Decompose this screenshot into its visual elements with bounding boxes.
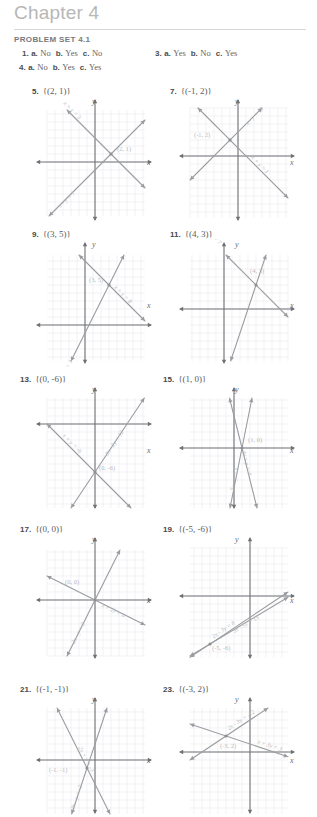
equation-label: x + y = 3 — [62, 99, 83, 120]
problem-number: 11. — [170, 230, 181, 239]
coordinate-plane: x + y = -63x - 2y = 12(0, -6) — [33, 384, 157, 512]
intersection-point — [109, 152, 112, 155]
problem-caption-5: 5.{(2, 1)} — [32, 86, 71, 96]
answer-part-value: No — [200, 48, 210, 58]
y-axis-label: y — [92, 535, 96, 544]
answer-part-letter: c. — [216, 49, 223, 58]
point-label: (0, 0) — [65, 578, 79, 586]
answer-part-value: No — [92, 48, 102, 58]
intersection-point — [93, 598, 96, 601]
y-axis-label: y — [235, 695, 239, 704]
answer-part-letter: c. — [80, 63, 87, 72]
x-axis-label: x — [290, 158, 294, 167]
problem-caption-11: 11.{(4, 3)} — [170, 229, 213, 239]
coordinate-plane: 2x - y = 0x + 2y = 0(0, 0) — [33, 534, 157, 662]
solution-set: {(0, -6)} — [35, 374, 66, 384]
solution-set: {(-3, 2)} — [178, 684, 209, 694]
x-axis-label: x — [290, 756, 294, 765]
page-title: Chapter 4 — [14, 2, 99, 24]
intersection-point — [224, 734, 227, 737]
graph-problem-21: 3x - y = -22x + y = -3(-1, -1) y x — [33, 694, 157, 817]
answer-line-4: 4.a.Nob.Yesc.Yes — [19, 62, 101, 72]
x-axis-label: x — [147, 596, 151, 605]
answer-part-value: Yes — [173, 48, 185, 58]
solution-set: {(3, 5)} — [43, 229, 71, 239]
answer-part-letter: b. — [191, 49, 198, 58]
y-axis-label: y — [92, 240, 96, 249]
equation-label: x - y = 1 — [56, 190, 75, 209]
header-divider — [14, 29, 306, 30]
problem-number: 5. — [32, 87, 39, 96]
coordinate-plane: x + y = 82x - y = 1(3, 5) — [33, 239, 157, 367]
answer-part-value: Yes — [225, 48, 237, 58]
intersection-point — [93, 470, 96, 473]
graph-problem-23: 2x - 3y = -12x + 3y = 3(-3, 2) y x — [176, 694, 300, 817]
point-label: (1, 0) — [248, 436, 262, 444]
coordinate-plane: x + y = 3x - y = 1(2, 1) — [33, 96, 157, 224]
equation-label: x + y = 7 — [202, 239, 224, 246]
point-label: (-5, -6) — [212, 644, 230, 652]
x-axis-label: x — [147, 756, 151, 765]
coordinate-plane: 2x - 3y = 83x - 5y = 15(-5, -6) — [176, 534, 300, 662]
problem-caption-13: 13.{(0, -6)} — [20, 374, 66, 384]
solution-set: {(-5, -6)} — [178, 524, 212, 534]
graph-problem-19: 2x - 3y = 83x - 5y = 15(-5, -6) y x — [176, 534, 300, 662]
coordinate-plane: x + y = 73x - y = 9(4, 3) — [176, 239, 300, 367]
graph-problem-5: x + y = 3x - y = 1(2, 1) y x — [33, 96, 157, 224]
point-label: (2, 1) — [117, 145, 131, 153]
coordinate-plane: 2x - 3y = -12x + 3y = 3(-3, 2) — [176, 694, 300, 817]
coordinate-plane: 4x + y = 45x - y = 5(1, 0) — [176, 384, 300, 512]
answer-part-letter: b. — [56, 49, 63, 58]
problem-caption-15: 15.{(1, 0)} — [163, 374, 206, 384]
answer-part-letter: c. — [83, 49, 90, 58]
point-label: (-3, 2) — [220, 742, 236, 750]
answer-part-letter: b. — [53, 63, 60, 72]
point-label: (0, -6) — [99, 464, 115, 472]
graph-problem-11: x + y = 73x - y = 9(4, 3) y x — [176, 239, 300, 367]
answer-part-value: Yes — [89, 62, 101, 72]
problem-caption-21: 21.{(-1, -1)} — [20, 684, 69, 694]
solution-set: {(2, 1)} — [43, 86, 71, 96]
solution-set: {(0, 0)} — [35, 524, 63, 534]
problem-number: 13. — [20, 375, 31, 384]
graph-problem-7: x + y = 1x - y = -3(-1, 2) y x — [176, 96, 300, 224]
solution-set: {(1, 0)} — [178, 374, 206, 384]
y-axis-label: y — [235, 535, 239, 544]
point-label: (-1, -1) — [49, 766, 67, 774]
problem-number: 17. — [20, 525, 31, 534]
equation-label: 3x - 2y = 12 — [103, 429, 125, 458]
x-axis-label: x — [290, 596, 294, 605]
graph-problem-9: x + y = 82x - y = 1(3, 5) y x — [33, 239, 157, 367]
answer-part-value: No — [40, 48, 50, 58]
graph-problem-13: x + y = -63x - 2y = 12(0, -6) y x — [33, 384, 157, 512]
answer-number: 3. — [155, 49, 162, 58]
problem-number: 9. — [32, 230, 39, 239]
answer-line-3: 3.a.Yesb.Noc.Yes — [155, 48, 237, 58]
answer-part-letter: a. — [31, 49, 38, 58]
problem-caption-17: 17.{(0, 0)} — [20, 524, 63, 534]
answer-part-value: No — [37, 62, 47, 72]
equation-label: 2x - y = 0 — [70, 621, 86, 645]
equation-label: x + y = -6 — [61, 432, 83, 454]
answer-line-1: 1.a.Nob.Yesc.No — [22, 48, 102, 58]
graph-problem-17: 2x - y = 0x + 2y = 0(0, 0) y x — [33, 534, 157, 662]
problem-caption-23: 23.{(-3, 2)} — [163, 684, 209, 694]
y-axis-label: y — [235, 385, 239, 394]
y-axis-label: y — [235, 240, 239, 249]
problem-set-heading: PROBLEM SET 4.1 — [14, 35, 90, 44]
answer-part-value: Yes — [62, 62, 74, 72]
x-axis-label: x — [290, 301, 294, 310]
intersection-point — [85, 766, 88, 769]
solution-set: {(4, 3)} — [185, 229, 213, 239]
point-label: (-1, 2) — [194, 131, 210, 139]
problem-number: 7. — [170, 87, 177, 96]
intersection-point — [254, 283, 257, 286]
solution-set: {(-1, 2)} — [181, 86, 212, 96]
x-axis-label: x — [147, 158, 151, 167]
answer-number: 1. — [22, 49, 29, 58]
coordinate-plane: 3x - y = -22x + y = -3(-1, -1) — [33, 694, 157, 817]
problem-caption-19: 19.{(-5, -6)} — [163, 524, 212, 534]
y-axis-label: y — [92, 97, 96, 106]
problem-number: 21. — [20, 685, 31, 694]
equation-label: 5x - y = 5 — [229, 467, 239, 491]
